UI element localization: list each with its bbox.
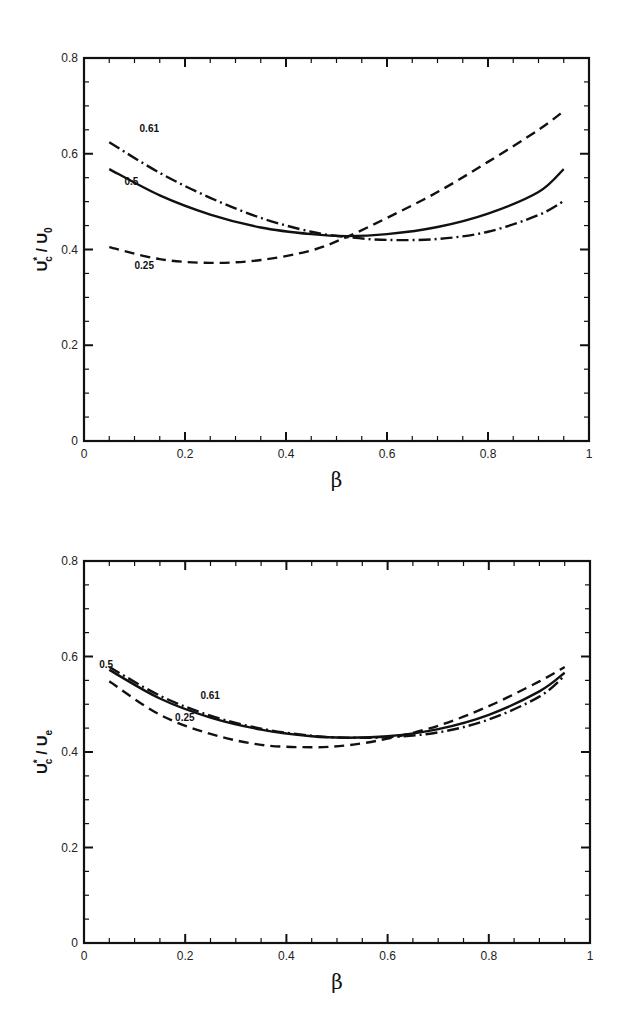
x-axis-label: β	[331, 468, 343, 492]
x-axis: 00.20.40.60.81β	[81, 561, 594, 994]
y-tick-label: 0.2	[61, 338, 78, 352]
x-axis-label: β	[331, 970, 343, 994]
x-tick-label: 0.6	[379, 447, 396, 461]
x-tick-label: 0.4	[278, 949, 295, 963]
x-tick-label: 0.8	[480, 949, 497, 963]
curves	[109, 667, 564, 747]
x-tick-label: 0.6	[379, 949, 396, 963]
y-tick-label: 0.2	[61, 841, 78, 855]
line-chart-bottom: 00.20.40.60.81β00.20.40.60.8U*c / Ue0.50…	[0, 503, 625, 1033]
y-tick-label: 0.8	[61, 51, 78, 65]
curve-0_25-dashed	[109, 111, 564, 263]
curve-label: 0.25	[175, 712, 195, 723]
x-tick-label: 0.8	[480, 447, 497, 461]
x-tick-label: 0	[81, 447, 88, 461]
chart-panel-bottom: 00.20.40.60.81β00.20.40.60.8U*c / Ue0.50…	[0, 503, 625, 1033]
curve-label: 0.61	[140, 123, 160, 134]
y-tick-label: 0.4	[61, 745, 78, 759]
x-tick-label: 1	[587, 949, 594, 963]
y-tick-label: 0.6	[61, 650, 78, 664]
x-tick-label: 0.2	[177, 447, 194, 461]
plot-frame	[84, 58, 589, 441]
line-chart-top: 00.20.40.60.81β00.20.40.60.8U*c / U00.61…	[0, 0, 625, 520]
curve-label: 0.5	[99, 659, 113, 670]
y-tick-label: 0	[71, 434, 78, 448]
x-tick-label: 1	[586, 447, 593, 461]
curve-label: 0.25	[135, 260, 155, 271]
y-tick-label: 0.6	[61, 147, 78, 161]
x-tick-label: 0	[81, 949, 88, 963]
y-tick-label: 0	[71, 936, 78, 950]
y-axis-label: U*c / Ue	[32, 729, 54, 774]
plot-frame	[84, 561, 590, 943]
curve-0_5-solid	[109, 169, 564, 236]
curve-label: 0.61	[200, 690, 220, 701]
y-axis: 00.20.40.60.8U*c / Ue	[32, 554, 590, 950]
x-tick-label: 0.4	[278, 447, 295, 461]
y-axis-label: U*c / U0	[32, 227, 54, 272]
curve-label: 0.5	[124, 176, 138, 187]
y-tick-label: 0.4	[61, 243, 78, 257]
x-tick-label: 0.2	[177, 949, 194, 963]
curve-0_61-dashdot	[109, 142, 564, 240]
chart-panel-top: 00.20.40.60.81β00.20.40.60.8U*c / U00.61…	[0, 0, 625, 520]
curves	[109, 111, 564, 263]
y-tick-label: 0.8	[61, 554, 78, 568]
